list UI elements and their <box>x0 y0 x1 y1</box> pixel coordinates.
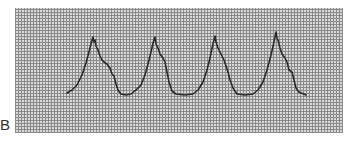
waveform-trace <box>0 0 357 141</box>
